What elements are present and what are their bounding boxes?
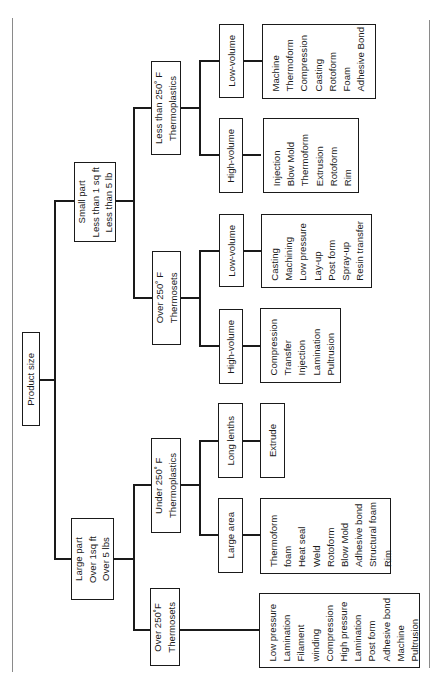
node-label: High-volume xyxy=(224,320,238,374)
process-list-text: Machine Thermoform Compression Casting R… xyxy=(269,27,368,92)
node-label: Low-volume xyxy=(225,225,239,277)
page-edge-right xyxy=(429,20,430,668)
node-ts-high-volume: High-volume xyxy=(219,309,243,384)
node-tp-high-volume: High-volume xyxy=(219,118,243,193)
node-label: Product size xyxy=(24,353,38,406)
connector-large-part xyxy=(54,558,72,560)
process-list-text: Injection Blow Mold Thermoform Extrusion… xyxy=(270,134,355,186)
connector-small-branch-vertical xyxy=(133,107,135,299)
process-list-tp-high-volume: Injection Blow Mold Thermoform Extrusion… xyxy=(263,118,359,193)
connector-tp-branch-vertical xyxy=(199,60,201,155)
node-label: Small part Less than 1 sq ft Less than 5… xyxy=(75,167,116,237)
node-small-part: Small part Less than 1 sq ft Less than 5… xyxy=(74,162,116,242)
connector-large-branch-vertical xyxy=(133,484,135,630)
process-list-large-thermosets: Low pressure Lamination Filament winding… xyxy=(259,593,420,668)
process-list-ts-high-volume: Compression Transfer Injection Laminatio… xyxy=(260,308,341,383)
connector-ts-high-volume xyxy=(199,345,219,347)
connector-ts-high-volume-list xyxy=(243,345,260,347)
connector-small-part xyxy=(54,200,74,202)
connector-small-branch xyxy=(116,200,134,202)
process-list-long-lengths: Extrude xyxy=(260,403,285,478)
node-tp-low-volume: Low-volume xyxy=(219,24,244,98)
process-list-tp-low-volume: Machine Thermoform Compression Casting R… xyxy=(262,24,376,99)
node-label: Low-volume xyxy=(225,35,239,87)
process-list-text: Casting Machining Low pressure Lay-up Po… xyxy=(268,221,367,281)
connector-ts-low-volume-list xyxy=(244,250,261,252)
node-small-thermosets: Over 250˚ F Thermosets xyxy=(152,251,181,345)
connector-large-branch xyxy=(114,558,134,560)
connector-large-thermosets-list xyxy=(180,629,259,631)
node-label: Long lenths xyxy=(224,416,238,466)
connector-trunk xyxy=(54,200,56,559)
page-edge-left xyxy=(12,18,13,672)
process-list-large-area: Thermoform foam Heat seal Weld Rotoform … xyxy=(260,498,391,574)
node-ts-low-volume: Low-volume xyxy=(219,214,244,287)
connector-ltp-branch-vertical xyxy=(199,440,201,535)
connector-extrude xyxy=(243,440,260,442)
connector-tp-low-volume xyxy=(199,60,219,62)
root-node-product-size: Product size xyxy=(22,332,40,426)
connector-large-thermosets xyxy=(133,629,150,631)
node-large-thermosets: Over 250˚F Thermosets xyxy=(150,588,180,666)
connector-long-lengths xyxy=(199,440,218,442)
process-list-text: Low pressure Lamination Filament winding… xyxy=(266,598,422,661)
connector-ts-branch xyxy=(181,297,200,299)
node-label: Over 250˚F Thermosets xyxy=(151,602,178,653)
node-label: Under 250˚ F Thermoplastics xyxy=(152,453,179,518)
process-list-text: Extrude xyxy=(266,424,280,457)
connector-tp-high-volume xyxy=(199,154,219,156)
process-list-ts-low-volume: Casting Machining Low pressure Lay-up Po… xyxy=(261,214,372,288)
node-long-lengths: Long lenths xyxy=(218,403,243,478)
process-list-text: Compression Transfer Injection Laminatio… xyxy=(267,319,338,376)
node-label: Large part Over 1sq ft Over 5 lbs xyxy=(72,536,113,583)
node-label: Less than 250˚ F Thermoplastics xyxy=(152,72,179,144)
node-small-thermoplastics: Less than 250˚ F Thermoplastics xyxy=(151,61,181,155)
node-label: Over 250˚ F Thermosets xyxy=(153,272,180,323)
connector-ltp-branch xyxy=(181,484,200,486)
connector-tp-low-volume-list xyxy=(244,60,262,62)
node-large-thermoplastics: Under 250˚ F Thermoplastics xyxy=(151,438,181,533)
connector-ts-low-volume xyxy=(199,250,219,252)
connector-small-thermoplastics xyxy=(133,107,151,109)
connector-large-thermoplastics xyxy=(133,484,151,486)
process-list-text: Thermoform foam Heat seal Weld Rotoform … xyxy=(267,502,395,567)
connector-tp-branch xyxy=(181,107,200,109)
connector-ts-branch-vertical xyxy=(199,250,201,346)
connector-large-area-list xyxy=(243,534,260,536)
connector-small-thermosets xyxy=(133,297,152,299)
node-label: High-volume xyxy=(224,129,238,183)
node-label: Large area xyxy=(224,512,238,558)
node-large-part: Large part Over 1sq ft Over 5 lbs xyxy=(71,518,114,600)
node-large-area: Large area xyxy=(218,498,243,573)
connector-large-area xyxy=(199,534,218,536)
connector-tp-high-volume-list xyxy=(243,154,261,156)
